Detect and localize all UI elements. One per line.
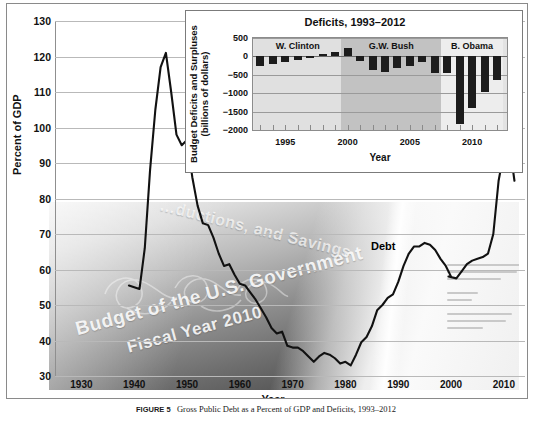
inset-minor-tick — [360, 125, 361, 130]
inset-chart: Deficits, 1993–2012 Budget Deficits and … — [185, 10, 523, 173]
inset-x-axis-label: Year — [252, 152, 508, 163]
deficit-bar — [306, 56, 314, 58]
inset-y-axis-ticks: 5000−500−1000−1500−2000 — [204, 37, 248, 131]
deficit-bar — [406, 56, 414, 65]
main-y-tick-label: 130 — [33, 15, 51, 27]
deficit-bar — [281, 56, 289, 62]
inset-chart-title: Deficits, 1993–2012 — [186, 16, 524, 28]
main-x-tick-label: 1940 — [123, 379, 145, 390]
main-y-tick-label: 70 — [39, 228, 51, 240]
deficit-bar — [319, 54, 327, 57]
deficit-bar — [481, 56, 489, 91]
inset-minor-tick — [497, 125, 498, 130]
main-x-axis-label: Year — [13, 393, 528, 399]
main-x-tick-label: 2010 — [493, 379, 515, 390]
main-y-axis-ticks: 13012011010090807060504030 — [13, 21, 51, 376]
main-x-tick-label: 1970 — [282, 379, 304, 390]
main-y-tick-label: 50 — [39, 299, 51, 311]
inset-y-tick-label: −1000 — [223, 88, 248, 98]
main-y-tick-label: 110 — [34, 86, 51, 98]
inset-x-tick-label: 2010 — [462, 137, 482, 147]
main-y-tick-label: 80 — [39, 193, 51, 205]
inset-minor-tick — [410, 125, 411, 130]
president-band — [341, 38, 441, 130]
figure-frame: Budget of the U.S. Government Fiscal Yea… — [6, 3, 528, 399]
inset-minor-tick — [373, 125, 374, 130]
inset-x-tick-label: 2000 — [338, 137, 358, 147]
deficit-bar — [344, 48, 352, 57]
inset-gridline — [253, 38, 507, 39]
figure-caption-text: Gross Public Debt as a Percent of GDP an… — [177, 404, 396, 414]
main-y-tick-label: 60 — [39, 264, 51, 276]
inset-y-tick-label: 500 — [233, 33, 248, 43]
deficit-bar — [269, 56, 277, 63]
inset-minor-tick — [397, 125, 398, 130]
deficit-bar — [468, 56, 476, 108]
inset-gridline — [253, 130, 507, 131]
main-x-tick-label: 1980 — [334, 379, 356, 390]
inset-y-tick-label: 0 — [243, 51, 248, 61]
president-band-label: G.W. Bush — [369, 41, 414, 51]
president-band-label: B. Obama — [451, 41, 493, 51]
deficit-bar — [393, 56, 401, 68]
deficit-bar — [256, 56, 264, 65]
inset-minor-tick — [323, 125, 324, 130]
deficit-bar — [381, 56, 389, 71]
deficit-bar — [456, 56, 464, 124]
inset-y-tick-label: −1500 — [223, 107, 248, 117]
inset-x-tick-label: 2005 — [400, 137, 420, 147]
deficit-bar — [443, 56, 451, 73]
main-y-axis-label: Percent of GDP — [11, 94, 23, 175]
inset-minor-tick — [472, 125, 473, 130]
main-y-tick-label: 90 — [39, 157, 51, 169]
inset-x-axis-ticks: 1995200020052010 — [252, 137, 508, 149]
inset-minor-tick — [348, 125, 349, 130]
main-x-tick-label: 1930 — [70, 379, 92, 390]
main-y-tick-label: 40 — [39, 335, 51, 347]
inset-minor-tick — [435, 125, 436, 130]
president-band — [254, 38, 341, 130]
figure-screenshot: Budget of the U.S. Government Fiscal Yea… — [0, 0, 534, 426]
inset-gridline — [253, 112, 507, 113]
inset-plot-area: W. ClintonG.W. BushB. Obama — [252, 37, 508, 131]
main-x-tick-label: 1950 — [176, 379, 198, 390]
inset-minor-tick — [260, 125, 261, 130]
main-x-axis-ticks: 193019401950196019701980199020002010 — [55, 379, 525, 393]
inset-y-axis-label-line1: Budget Deficits and Surpluses — [188, 25, 199, 163]
main-y-tick-label: 120 — [33, 51, 51, 63]
inset-minor-tick — [335, 125, 336, 130]
deficit-bar — [369, 56, 377, 70]
deficit-bar — [356, 56, 364, 61]
inset-minor-tick — [485, 125, 486, 130]
figure-caption: FIGURE 5 Gross Public Debt as a Percent … — [6, 404, 526, 414]
deficit-bar — [418, 56, 426, 62]
main-y-tick-label: 30 — [39, 370, 51, 382]
inset-minor-tick — [460, 125, 461, 130]
figure-caption-label: FIGURE 5 — [136, 405, 171, 414]
main-x-tick-label: 2000 — [440, 379, 462, 390]
inset-minor-tick — [298, 125, 299, 130]
inset-y-tick-label: −2000 — [223, 125, 248, 135]
main-x-tick-label: 1960 — [229, 379, 251, 390]
main-gridline — [55, 376, 525, 377]
main-y-tick-label: 100 — [33, 122, 51, 134]
president-band-label: W. Clinton — [276, 41, 320, 51]
deficit-bar — [493, 56, 501, 80]
inset-minor-tick — [273, 125, 274, 130]
inset-y-tick-label: −500 — [228, 70, 248, 80]
inset-minor-tick — [385, 125, 386, 130]
debt-series-label: Debt — [371, 240, 395, 252]
deficit-bar — [431, 56, 439, 73]
inset-x-tick-label: 1995 — [275, 137, 295, 147]
deficit-bar — [331, 52, 339, 57]
inset-minor-tick — [310, 125, 311, 130]
deficit-bar — [294, 56, 302, 60]
inset-minor-tick — [285, 125, 286, 130]
inset-minor-tick — [447, 125, 448, 130]
main-x-tick-label: 1990 — [387, 379, 409, 390]
inset-minor-tick — [422, 125, 423, 130]
